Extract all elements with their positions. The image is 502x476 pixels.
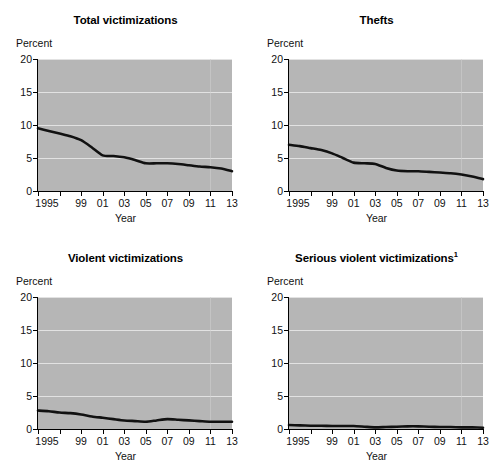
y-axis-tick-label: 15: [8, 87, 32, 97]
x-axis-tick-mark: [332, 430, 333, 434]
y-axis-tick-mark: [33, 363, 38, 364]
x-axis-tick-mark: [103, 192, 104, 196]
y-axis-tick-label: 15: [8, 325, 32, 335]
y-axis-label: Percent: [16, 275, 52, 287]
y-axis-tick-mark: [33, 396, 38, 397]
x-axis-tick-mark: [167, 430, 168, 434]
data-series-line: [289, 59, 483, 191]
data-series-line: [289, 297, 483, 429]
y-axis-tick-mark: [284, 125, 289, 126]
y-axis-tick-label: 0: [8, 186, 32, 196]
y-axis-tick-label: 10: [259, 358, 283, 368]
x-axis-tick-mark: [289, 192, 290, 196]
chart-grid: Total victimizationsPercent0510152019959…: [0, 0, 502, 476]
chart-title-text: Violent victimizations: [68, 252, 183, 264]
chart-title: Total victimizations: [0, 14, 251, 26]
y-axis-tick-label: 0: [259, 186, 283, 196]
data-series-path: [289, 145, 483, 179]
x-axis-tick-label: 05: [140, 436, 152, 447]
x-axis-line: [37, 191, 233, 192]
x-axis-tick-mark: [189, 192, 190, 196]
y-axis-tick-label: 10: [8, 358, 32, 368]
x-axis-tick-mark: [189, 430, 190, 434]
x-axis-label: Year: [251, 212, 502, 224]
x-axis-tick-mark: [38, 192, 39, 196]
data-series-path: [38, 411, 232, 422]
x-axis-tick-label: 09: [183, 436, 195, 447]
y-axis-tick-label: 15: [259, 87, 283, 97]
x-axis-tick-label: 09: [434, 436, 446, 447]
x-axis-tick-label: 13: [226, 436, 238, 447]
y-axis-tick-label: 20: [8, 54, 32, 64]
x-axis-tick-mark: [232, 430, 233, 434]
x-axis-tick-mark: [38, 430, 39, 434]
chart-title-text: Serious violent victimizations: [295, 252, 454, 264]
x-axis-tick-mark: [483, 192, 484, 196]
x-axis-tick-label: 11: [205, 198, 216, 209]
x-axis-tick-mark: [440, 192, 441, 196]
x-axis-tick-mark: [81, 430, 82, 434]
x-axis-tick-label: 07: [161, 198, 173, 209]
x-axis-tick-mark: [311, 430, 312, 434]
y-axis-tick-label: 20: [259, 54, 283, 64]
x-axis-tick-label: 1995: [286, 198, 309, 209]
x-axis-line: [288, 191, 484, 192]
x-axis-tick-label: 03: [369, 198, 381, 209]
x-axis-tick-label: 03: [369, 436, 381, 447]
x-axis-tick-mark: [167, 192, 168, 196]
x-axis-tick-label: 1995: [35, 436, 58, 447]
plot-area: [289, 59, 483, 191]
y-axis-tick-label: 10: [259, 120, 283, 130]
y-axis-label: Percent: [267, 37, 303, 49]
chart-title-text: Total victimizations: [74, 14, 178, 26]
x-axis-tick-label: 05: [391, 436, 403, 447]
x-axis-tick-label: 11: [205, 436, 216, 447]
x-axis-tick-mark: [332, 192, 333, 196]
chart-panel: TheftsPercent051015201995990103050709111…: [251, 0, 502, 238]
x-axis-tick-label: 11: [456, 436, 467, 447]
x-axis-tick-label: 09: [434, 198, 446, 209]
x-axis-tick-label: 13: [477, 436, 489, 447]
y-axis-tick-label: 0: [259, 424, 283, 434]
data-series-path: [38, 128, 232, 171]
y-axis-tick-mark: [284, 396, 289, 397]
x-axis-tick-label: 99: [75, 198, 87, 209]
y-axis-tick-mark: [33, 125, 38, 126]
chart-title-footnote-marker: 1: [454, 250, 458, 259]
x-axis-tick-mark: [60, 192, 61, 196]
x-axis-tick-mark: [418, 192, 419, 196]
chart-panel: Total victimizationsPercent0510152019959…: [0, 0, 251, 238]
x-axis-tick-label: 11: [456, 198, 467, 209]
y-axis-tick-mark: [33, 297, 38, 298]
x-axis-tick-mark: [124, 430, 125, 434]
y-axis-tick-mark: [33, 92, 38, 93]
x-axis-tick-mark: [418, 430, 419, 434]
y-axis-tick-mark: [284, 363, 289, 364]
x-axis-tick-mark: [146, 192, 147, 196]
x-axis-tick-mark: [289, 430, 290, 434]
y-axis-tick-mark: [33, 330, 38, 331]
x-axis-tick-mark: [81, 192, 82, 196]
x-axis-tick-label: 1995: [35, 198, 58, 209]
x-axis-tick-label: 09: [183, 198, 195, 209]
x-axis-tick-label: 07: [161, 436, 173, 447]
x-axis-tick-label: 1995: [286, 436, 309, 447]
x-axis-tick-mark: [375, 430, 376, 434]
x-axis-tick-mark: [440, 430, 441, 434]
x-axis-tick-mark: [311, 192, 312, 196]
x-axis-label: Year: [0, 450, 251, 462]
y-axis-tick-mark: [284, 92, 289, 93]
y-axis-tick-mark: [284, 158, 289, 159]
x-axis-tick-label: 07: [412, 436, 424, 447]
y-axis-tick-mark: [33, 158, 38, 159]
x-axis-tick-label: 01: [97, 436, 109, 447]
chart-title: Thefts: [251, 14, 502, 26]
y-axis-label: Percent: [267, 275, 303, 287]
x-axis-tick-label: 01: [348, 436, 360, 447]
x-axis-tick-mark: [210, 430, 211, 434]
x-axis-tick-label: 03: [118, 436, 130, 447]
chart-title: Serious violent victimizations1: [251, 252, 502, 264]
y-axis-tick-label: 5: [259, 153, 283, 163]
x-axis-tick-label: 07: [412, 198, 424, 209]
x-axis-tick-label: 05: [140, 198, 152, 209]
